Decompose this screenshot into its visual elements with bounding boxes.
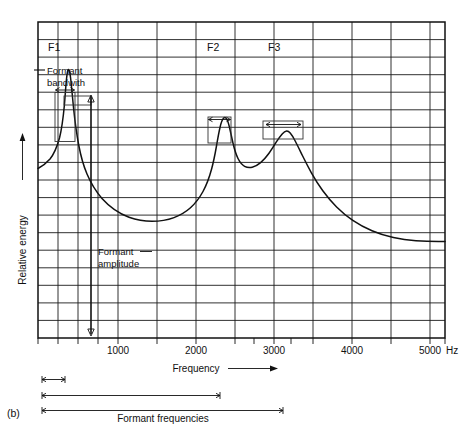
y-axis-title-group: Relative energy [17, 133, 28, 285]
x-tick-5000: 5000 [419, 345, 442, 356]
f2-tag-label: F2 [207, 41, 219, 53]
f3-tag-label: F3 [268, 41, 280, 53]
x-axis-unit-label: Hz [446, 345, 458, 356]
x-tick-labels: 1000 2000 3000 4000 5000 Hz [107, 345, 458, 356]
x-tick-4000: 4000 [341, 345, 364, 356]
formant-spectrum-figure: F1 F2 F3 Formant bandwith [0, 0, 476, 431]
bottom-caption: Formant frequencies [117, 413, 209, 424]
f1-tag-label: F1 [48, 41, 60, 53]
bandwidth-label-line1: Formant [47, 65, 83, 76]
formant-bandwidth-callout: Formant bandwith [34, 65, 91, 142]
x-tick-3000: 3000 [263, 345, 286, 356]
figure-root: F1 F2 F3 Formant bandwith [0, 0, 476, 431]
x-axis-arrow-icon [270, 366, 278, 372]
y-axis-title: Relative energy [17, 215, 28, 284]
x-tick-1000: 1000 [107, 345, 130, 356]
formant-tags: F1 F2 F3 [48, 41, 280, 53]
f3-bandwidth-marker [263, 121, 303, 139]
panel-label: (b) [7, 407, 20, 419]
amplitude-label-line2: amplitude [98, 258, 139, 269]
x-axis-title: Frequency [172, 363, 219, 374]
formant-frequency-range-bars: Formant frequencies [42, 376, 283, 424]
x-axis-ticks [38, 338, 445, 344]
x-axis-title-group: Frequency [172, 363, 278, 374]
y-axis-arrow-icon [20, 133, 26, 141]
x-tick-2000: 2000 [185, 345, 208, 356]
spectrum-curve [38, 69, 445, 241]
amplitude-label-line1: Formant [98, 246, 134, 257]
horizontal-gridlines [38, 40, 445, 321]
bandwidth-label-line2: bandwith [47, 77, 85, 88]
